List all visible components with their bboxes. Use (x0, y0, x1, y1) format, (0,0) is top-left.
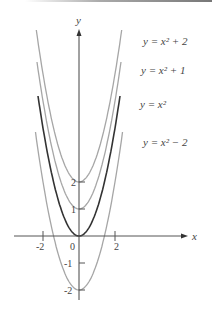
y-tick-2: 2 (71, 177, 76, 188)
parabola-chart: x y -2 0 2 2 1 -1 -2 y = x² + 2 y = x² +… (0, 0, 212, 321)
label-curve-zero: y = x² (139, 98, 167, 110)
y-axis-label: y (75, 14, 81, 26)
label-curve-minus2: y = x² − 2 (142, 136, 188, 148)
y-tick-neg2: -2 (64, 285, 72, 296)
x-tick-neg2: -2 (36, 241, 44, 252)
y-axis-arrow-icon (77, 29, 82, 36)
y-tick-1: 1 (71, 204, 76, 215)
x-tick-2: 2 (114, 241, 119, 252)
x-tick-0: 0 (70, 241, 75, 252)
y-tick-neg1: -1 (64, 258, 72, 269)
label-curve-plus2: y = x² + 2 (142, 35, 188, 47)
label-curve-plus1: y = x² + 1 (140, 64, 185, 76)
x-axis-label: x (191, 230, 197, 242)
x-axis-arrow-icon (181, 234, 188, 239)
